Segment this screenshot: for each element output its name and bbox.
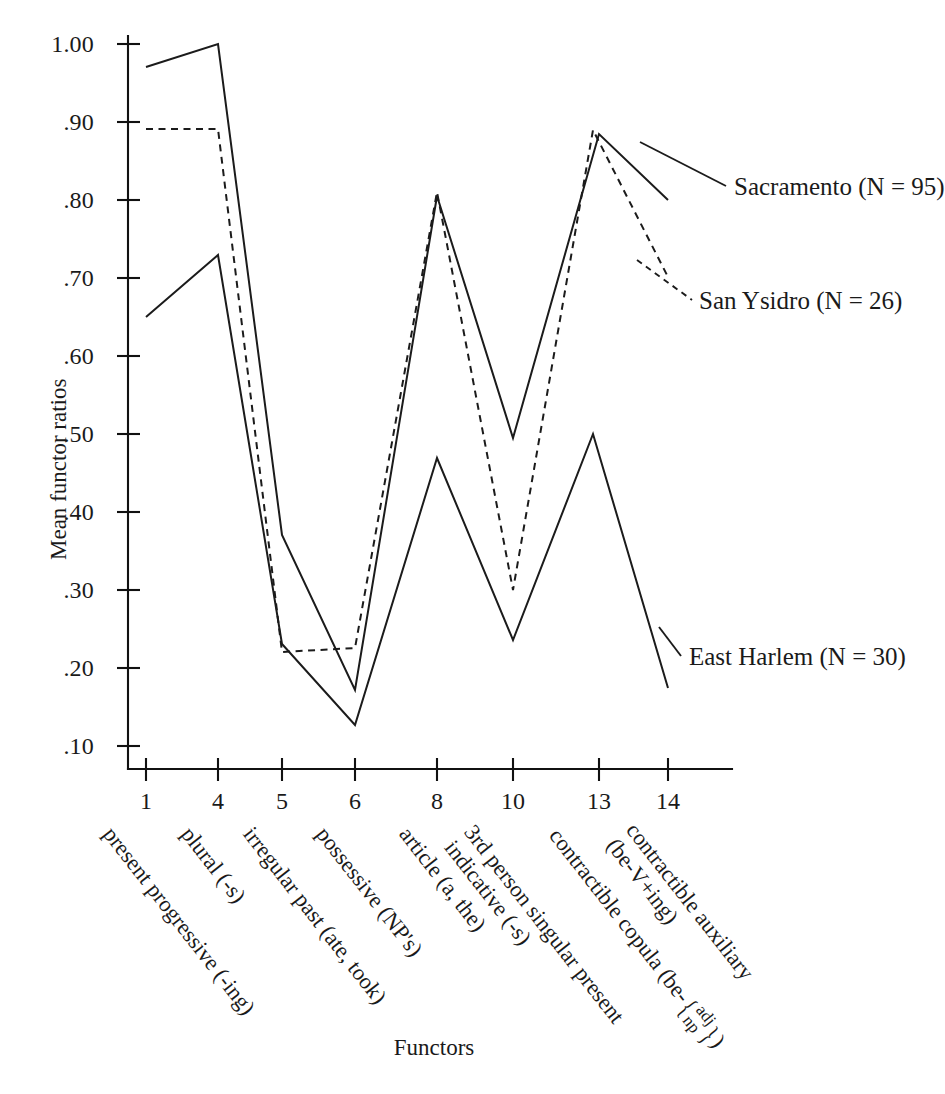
y-tick-label: .90 — [22, 109, 94, 136]
x-tick-label: 14 — [656, 788, 680, 815]
y-tick-label: .60 — [22, 343, 94, 370]
legend-label-sacramento: Sacramento (N = 95) — [734, 173, 945, 201]
x-axis-title: Functors — [394, 1035, 475, 1061]
y-tick-label: .30 — [22, 577, 94, 604]
x-tick-label: 6 — [349, 788, 361, 815]
leader-line-sacramento — [640, 142, 726, 186]
y-axis-title: Mean functor ratios — [46, 379, 72, 560]
y-tick-label: .70 — [22, 265, 94, 292]
series-line-san-ysidro — [146, 129, 668, 652]
x-tick-label: 1 — [140, 788, 152, 815]
y-tick-label: 1.00 — [22, 31, 94, 58]
x-tick-label: 10 — [501, 788, 525, 815]
y-tick-label: .10 — [22, 733, 94, 760]
x-tick-label: 4 — [212, 788, 224, 815]
y-tick-label: .20 — [22, 655, 94, 682]
x-tick-label: 5 — [276, 788, 288, 815]
legend-label-san-ysidro: San Ysidro (N = 26) — [699, 287, 902, 315]
leader-line-east-harlem — [659, 627, 681, 656]
series-line-east-harlem — [146, 255, 668, 725]
y-tick-label: .80 — [22, 187, 94, 214]
legend-label-east-harlem: East Harlem (N = 30) — [689, 643, 906, 671]
x-tick-label: 13 — [587, 788, 611, 815]
leader-line-san-ysidro — [637, 260, 692, 300]
x-tick-label: 8 — [431, 788, 443, 815]
series-line-sacramento — [146, 44, 668, 690]
